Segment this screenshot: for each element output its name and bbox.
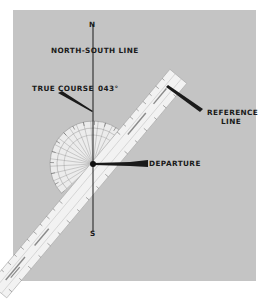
true-course-value: 043° <box>98 85 118 92</box>
departure-point <box>90 161 96 167</box>
north-south-line-label: NORTH-SOUTH LINE <box>51 47 139 54</box>
reference-line-label: LINE <box>221 118 241 125</box>
true-course-pointer <box>58 91 93 112</box>
plotter-diagram <box>0 0 267 300</box>
true-course-label: TRUE COURSE <box>32 85 94 92</box>
south-label: S <box>90 230 96 237</box>
departure-label: DEPARTURE <box>149 160 201 167</box>
reference-label: REFERENCE <box>207 109 258 116</box>
north-label: N <box>89 21 96 28</box>
